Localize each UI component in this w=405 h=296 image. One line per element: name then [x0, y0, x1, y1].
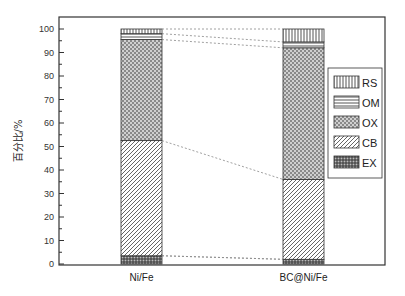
y-tick-label: 100 — [39, 24, 54, 34]
y-tick-label: 0 — [49, 259, 54, 269]
bar-segment-om — [283, 42, 324, 48]
y-tick-label: 10 — [44, 236, 54, 246]
bar-segment-cb — [121, 141, 162, 256]
y-tick-label: 60 — [44, 118, 54, 128]
plot-area — [121, 29, 324, 264]
y-tick-label: 50 — [44, 142, 54, 152]
bar-segment-ox — [283, 48, 324, 180]
legend-label-om: OM — [362, 97, 380, 109]
stacked-bar-chart: 0102030405060708090100 Ni/FeBC@Ni/Fe 百分比… — [0, 0, 405, 296]
y-tick-label: 90 — [44, 48, 54, 58]
x-axis-labels: Ni/FeBC@Ni/Fe — [130, 272, 328, 283]
y-axis-label: 百分比/% — [13, 120, 24, 163]
bar-segment-om — [121, 34, 162, 40]
bar-segment-rs — [121, 29, 162, 34]
y-axis: 0102030405060708090100 — [39, 24, 64, 269]
y-tick-label: 80 — [44, 71, 54, 81]
connector-line — [162, 34, 283, 42]
legend-label-ex: EX — [362, 157, 377, 169]
y-tick-label: 40 — [44, 165, 54, 175]
legend-swatch-ox — [334, 116, 359, 128]
y-tick-label: 30 — [44, 189, 54, 199]
x-category-label: BC@Ni/Fe — [280, 272, 328, 283]
legend-swatch-om — [334, 96, 359, 108]
legend-label-rs: RS — [362, 77, 377, 89]
legend-label-ox: OX — [362, 117, 379, 129]
y-tick-label: 20 — [44, 212, 54, 222]
connector-line — [162, 141, 283, 180]
legend-swatch-ex — [334, 156, 359, 168]
connector-line — [162, 256, 283, 260]
bar-segment-cb — [283, 179, 324, 259]
legend-label-cb: CB — [362, 137, 377, 149]
legend: RSOMOXCBEX — [328, 68, 382, 178]
bar-segment-ox — [121, 40, 162, 141]
x-category-label: Ni/Fe — [130, 272, 154, 283]
y-tick-label: 70 — [44, 95, 54, 105]
bar-segment-ex — [283, 259, 324, 264]
legend-swatch-rs — [334, 76, 359, 88]
legend-swatch-cb — [334, 136, 359, 148]
bar-segment-ex — [121, 256, 162, 264]
connector-line — [162, 40, 283, 48]
bar-segment-rs — [283, 29, 324, 42]
